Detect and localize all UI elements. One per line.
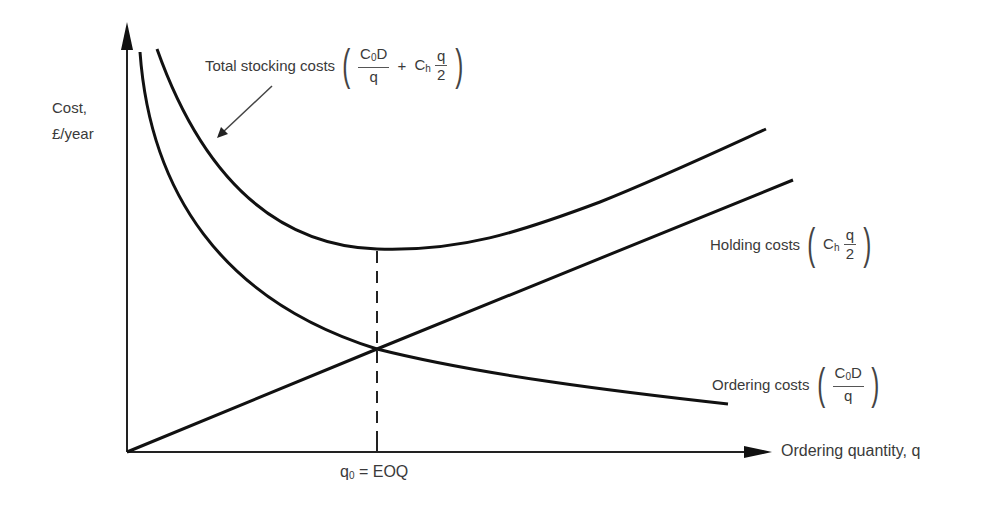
total-label-pointer [222, 86, 272, 133]
total-cost-text: Total stocking costs [205, 57, 335, 74]
ordering-fraction: C0D q [833, 364, 864, 405]
y-axis-arrow-icon [121, 22, 133, 50]
total-cost-label: Total stocking costs ( C0D q + Ch q 2 ) [205, 43, 466, 87]
open-paren: ( [808, 222, 816, 266]
holding-cost-text: Holding costs [710, 236, 800, 253]
eoq-q: q [340, 463, 349, 480]
eoq-label: q0 = EOQ [340, 463, 408, 481]
c-symbol: C [360, 45, 371, 62]
x-axis-label: Ordering quantity, q [781, 442, 920, 460]
ch-sub: h [834, 242, 840, 253]
close-paren: ) [871, 362, 879, 406]
holding-fraction: q 2 [844, 226, 856, 263]
close-paren: ) [863, 222, 871, 266]
q-denominator: q [833, 387, 864, 405]
ordering-cost-curve [140, 52, 728, 404]
q-denominator: q [358, 68, 389, 86]
two-denominator: 2 [435, 66, 447, 84]
holding-cost-line [127, 180, 793, 452]
ch-sub: h [425, 63, 431, 74]
q-numerator: q [435, 47, 447, 66]
y-axis-label-line2: £/year [52, 121, 94, 147]
ch-symbol: Ch [414, 56, 430, 74]
open-paren: ( [343, 43, 351, 87]
open-paren: ( [817, 362, 825, 406]
q-numerator: q [844, 226, 856, 245]
y-axis-label: Cost, £/year [52, 95, 94, 147]
c-symbol: C [835, 364, 846, 381]
plus-sign: + [397, 57, 406, 74]
ordering-fraction: C0D q [358, 45, 389, 86]
ordering-cost-text: Ordering costs [712, 376, 810, 393]
holding-cost-label: Holding costs ( Ch q 2 ) [710, 222, 875, 266]
ch-c: C [414, 56, 425, 73]
two-denominator: 2 [844, 245, 856, 263]
holding-fraction: q 2 [435, 47, 447, 84]
x-axis-arrow-icon [744, 446, 772, 458]
d-symbol: D [376, 45, 387, 62]
eoq-rest: = EOQ [354, 463, 408, 480]
close-paren: ) [455, 43, 463, 87]
ch-c: C [823, 235, 834, 252]
y-axis-label-line1: Cost, [52, 95, 94, 121]
ch-symbol: Ch [823, 235, 839, 253]
d-symbol: D [851, 364, 862, 381]
ordering-cost-label: Ordering costs ( C0D q ) [712, 362, 883, 406]
